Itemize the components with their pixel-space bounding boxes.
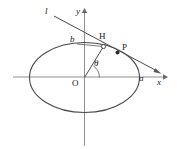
- figure-canvas: [0, 0, 177, 149]
- semi-minor-label: b: [70, 35, 75, 44]
- geometry-figure: l y x b a O H P θ: [0, 0, 177, 149]
- semi-major-label: a: [139, 74, 144, 83]
- point-h-label: H: [99, 32, 106, 41]
- line-l-arrow: [153, 68, 161, 74]
- point-p-label: P: [122, 43, 127, 52]
- x-axis-arrow: [163, 74, 168, 80]
- y-axis-label: y: [76, 7, 80, 16]
- x-axis-label: x: [157, 78, 161, 87]
- line-l-label: l: [45, 7, 48, 16]
- angle-theta-label: θ: [94, 59, 98, 68]
- line-l: [54, 16, 162, 74]
- point-h-marker: [101, 44, 105, 48]
- guide-b-to-h: [77, 44, 104, 47]
- y-axis-arrow: [82, 8, 87, 13]
- point-p-marker: [116, 51, 120, 55]
- x-axis: [13, 74, 168, 80]
- origin-label: O: [72, 79, 79, 88]
